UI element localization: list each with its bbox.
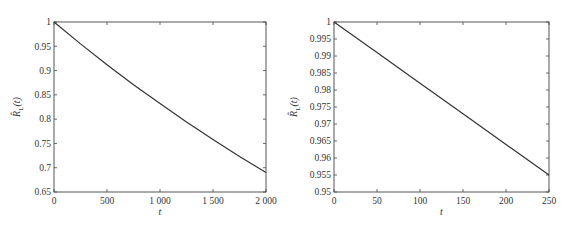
y-axis-label: R̂L(t): [287, 96, 302, 117]
y-tick-label: 0.975: [310, 102, 332, 112]
y-axis-label: R̂L(t): [10, 96, 25, 117]
y-tick-label: 0.965: [310, 136, 332, 146]
y-tick-label: 0.95: [34, 42, 51, 52]
y-tick-label: 0.98: [314, 85, 331, 95]
x-tick-label: 100: [413, 196, 428, 206]
y-tick-label: 0.9: [39, 66, 51, 76]
data-line: [334, 22, 549, 175]
x-tick-label: 150: [456, 196, 471, 206]
y-tick-label: 0.995: [310, 34, 332, 44]
y-tick-label: 0.955: [310, 170, 332, 180]
y-tick-label: 1: [326, 17, 331, 27]
chart-panel-1: 05001 0001 5002 0000.650.70.750.80.850.9…: [10, 17, 277, 217]
x-axis-label: t: [159, 206, 162, 217]
y-tick-label: 1: [46, 17, 51, 27]
charts-canvas: 05001 0001 5002 0000.650.70.750.80.850.9…: [0, 0, 568, 233]
plot-frame: [334, 22, 549, 192]
y-tick-label: 0.7: [39, 163, 51, 173]
x-tick-label: 0: [52, 196, 57, 206]
x-tick-label: 250: [542, 196, 557, 206]
y-tick-label: 0.99: [314, 51, 331, 61]
y-tick-label: 0.95: [314, 187, 331, 197]
chart-panel-2: 0501001502002500.950.9550.960.9650.970.9…: [287, 17, 556, 217]
x-axis-label: t: [440, 206, 443, 217]
y-tick-label: 0.65: [34, 187, 51, 197]
x-tick-label: 0: [332, 196, 337, 206]
x-tick-label: 1 000: [149, 196, 171, 206]
y-tick-label: 0.985: [310, 68, 332, 78]
x-tick-label: 200: [499, 196, 514, 206]
y-tick-label: 0.96: [314, 153, 331, 163]
x-tick-label: 500: [100, 196, 115, 206]
y-tick-label: 0.97: [314, 119, 331, 129]
x-tick-label: 1 500: [202, 196, 224, 206]
data-line: [54, 22, 266, 173]
y-tick-label: 0.8: [39, 114, 51, 124]
x-tick-label: 50: [372, 196, 382, 206]
x-tick-label: 2 000: [255, 196, 277, 206]
y-tick-label: 0.85: [34, 90, 51, 100]
y-tick-label: 0.75: [34, 139, 51, 149]
